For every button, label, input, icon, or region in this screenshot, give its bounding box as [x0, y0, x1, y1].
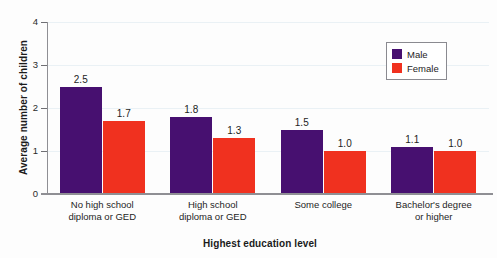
category-label-line: Bachelor's degree: [374, 199, 494, 211]
category-label-line: High school: [153, 199, 273, 211]
bar-female: [324, 151, 366, 194]
y-tick-label: 2: [18, 103, 38, 113]
category-label: No high schooldiploma or GED: [42, 199, 162, 223]
y-tick-label: 0: [18, 189, 38, 199]
bar-male: [281, 130, 323, 195]
bar-value-label: 1.8: [174, 104, 208, 115]
category-label-line: diploma or GED: [42, 211, 162, 223]
bar-value-label: 1.1: [395, 134, 429, 145]
bar-value-label: 1.7: [107, 108, 141, 119]
y-tick-label: 3: [18, 60, 38, 70]
bar-male: [391, 147, 433, 194]
category-label-line: Some college: [263, 199, 383, 211]
bar-female: [103, 121, 145, 194]
bar-value-label: 2.5: [64, 74, 98, 85]
category-label-line: or higher: [374, 211, 494, 223]
bar-chart: Average number of children 01234 2.51.71…: [0, 0, 497, 258]
category-label-line: No high school: [42, 199, 162, 211]
bar-female: [434, 151, 476, 194]
y-tick-label: 1: [18, 146, 38, 156]
category-label: High schooldiploma or GED: [153, 199, 273, 223]
legend: MaleFemale: [386, 42, 447, 80]
bar-value-label: 1.5: [285, 117, 319, 128]
legend-item-male: Male: [392, 47, 439, 61]
category-label: Bachelor's degreeor higher: [374, 199, 494, 223]
bar-value-label: 1.0: [328, 138, 362, 149]
x-axis-title: Highest education level: [45, 238, 475, 249]
y-axis-line: [47, 22, 48, 194]
legend-item-female: Female: [392, 61, 439, 75]
legend-label: Male: [407, 49, 428, 60]
legend-swatch-female: [392, 63, 402, 73]
bar-female: [213, 138, 255, 194]
bar-male: [60, 87, 102, 195]
bar-value-label: 1.0: [438, 138, 472, 149]
legend-label: Female: [407, 63, 439, 74]
x-axis-line: [41, 193, 493, 195]
bar-value-label: 1.3: [217, 125, 251, 136]
bar-male: [170, 117, 212, 194]
legend-swatch-male: [392, 49, 402, 59]
category-label-line: diploma or GED: [153, 211, 273, 223]
gridline: [47, 22, 489, 23]
category-label: Some college: [263, 199, 383, 211]
y-tick-label: 4: [18, 17, 38, 27]
